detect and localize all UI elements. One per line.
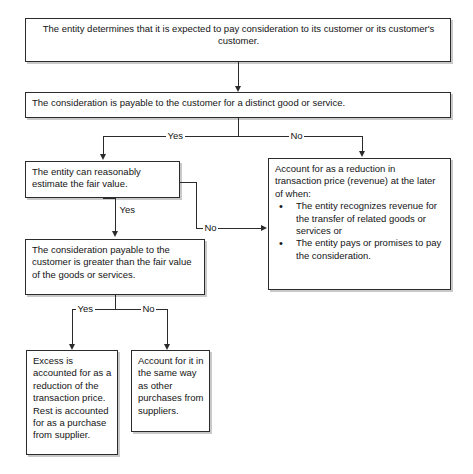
connector-greater-no-drop [167, 309, 168, 345]
flow-node-start: The entity determines that it is expecte… [25, 18, 451, 62]
flow-node-distinct-good-text: The consideration is payable to the cust… [32, 97, 445, 109]
flow-node-reduction-bullet-1: The entity pays or promises to pay the c… [275, 237, 445, 262]
connector-fairvalue-no-drop [196, 182, 197, 228]
connector-distinct-yes-drop [103, 136, 104, 155]
edge-label-distinct-no: No [289, 130, 304, 141]
flow-node-excess-text: Excess is accounted for as a reduction o… [33, 355, 112, 442]
flow-node-fair-value: The entity can reasonably estimate the f… [25, 161, 180, 198]
flow-node-reduction-intro-1: Account for as a reduction in [275, 163, 445, 175]
connector-fairvalue-yes-jog [103, 198, 115, 199]
edge-label-greater-no: No [141, 303, 156, 314]
flow-node-reduction-bullets: The entity recognizes revenue for the tr… [275, 200, 445, 262]
flow-node-reduction: Account for as a reduction in transactio… [268, 158, 451, 290]
arrowhead-greater-than-top [112, 231, 118, 237]
arrowhead-reduction-left [261, 225, 267, 231]
connector-start-to-distinct [238, 62, 239, 87]
arrowhead-reduction-top [359, 151, 365, 157]
edge-label-greater-yes: Yes [76, 303, 95, 314]
flow-node-greater-than: The consideration payable to the custome… [25, 239, 205, 295]
flow-node-distinct-good: The consideration is payable to the cust… [25, 92, 451, 118]
flow-node-greater-than-text: The consideration payable to the custome… [32, 244, 199, 281]
connector-distinct-stem [238, 118, 239, 136]
connector-distinct-branchbar [103, 136, 362, 137]
connector-greater-stem [115, 295, 116, 309]
edge-label-fair-value-no: No [203, 222, 218, 233]
flow-node-fair-value-text: The entity can reasonably estimate the f… [32, 166, 174, 191]
connector-greater-yes-drop [72, 309, 73, 345]
flow-node-same-way-text: Account for it in the same way as other … [138, 355, 204, 417]
flowchart-canvas: The entity determines that it is expecte… [0, 0, 473, 474]
flow-node-reduction-intro-3: of when: [275, 188, 445, 200]
flow-node-reduction-intro-2: transaction price (revenue) at the later [275, 175, 445, 187]
flow-node-start-text: The entity determines that it is expecte… [32, 23, 445, 48]
connector-fairvalue-no-out [180, 182, 196, 183]
flow-node-reduction-bullet-0: The entity recognizes revenue for the tr… [275, 200, 445, 237]
flow-node-excess: Excess is accounted for as a reduction o… [26, 350, 118, 455]
arrowhead-fair-value-top [100, 154, 106, 160]
connector-fairvalue-yes-drop [115, 198, 116, 232]
edge-label-fair-value-yes: Yes [118, 204, 137, 215]
edge-label-distinct-yes: Yes [166, 130, 185, 141]
flow-node-same-way: Account for it in the same way as other … [131, 350, 210, 432]
